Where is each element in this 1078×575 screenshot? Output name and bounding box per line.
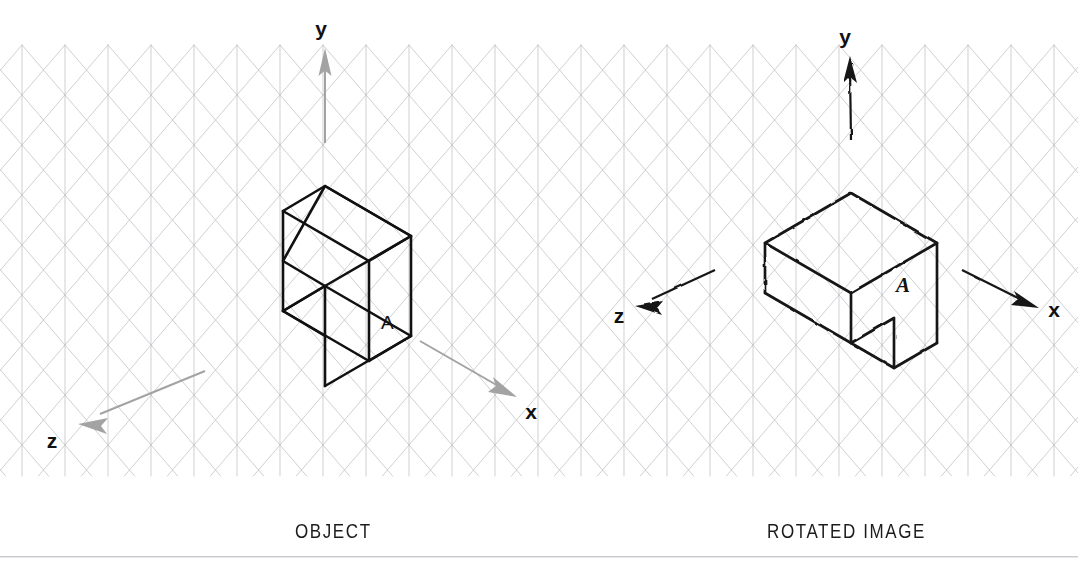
footer-divider xyxy=(0,556,1078,558)
worksheet-canvas: y x z xyxy=(0,0,1078,575)
caption-object: OBJECT xyxy=(295,520,372,544)
rotated-face-label-a: A xyxy=(894,273,910,297)
rotated-x-axis-label: x xyxy=(1048,298,1060,321)
rotated-x-axis xyxy=(962,270,1039,308)
caption-rotated-image: ROTATED IMAGE xyxy=(767,520,926,544)
rotated-solid xyxy=(765,193,937,368)
rotated-z-axis-label: z xyxy=(614,304,625,327)
rotated-y-axis xyxy=(843,56,857,140)
rotated-y-axis-label: y xyxy=(839,25,851,48)
rotated-z-axis xyxy=(635,270,715,315)
rotated-image-drawing: y x z A xyxy=(0,0,1078,575)
rotated-axes xyxy=(635,56,1039,315)
